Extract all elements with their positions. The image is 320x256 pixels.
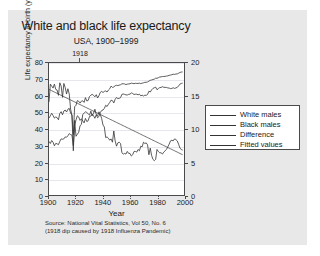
y-tick-label-left: 30: [26, 142, 43, 151]
y-tick-label-left: 40: [26, 125, 43, 134]
y-tick-mark-right: [185, 129, 188, 130]
y-tick-label-left: 80: [26, 58, 43, 67]
chart-title: White and black life expectancy: [8, 19, 204, 33]
chart-subtitle: USA, 1900–1999: [8, 36, 204, 46]
annotation-1918-label: 1918: [60, 50, 100, 57]
chart-figure: White and black life expectancy USA, 190…: [8, 10, 307, 245]
x-tick-label: 1940: [92, 198, 114, 207]
y-axis-label-left: Life expectancy at birth (years): [24, 0, 31, 80]
grid-line: [49, 197, 184, 198]
x-tick-mark: [185, 196, 186, 199]
x-tick-label: 1920: [64, 198, 86, 207]
chart-legend: White malesBlack malesDifferenceFitted v…: [205, 105, 300, 150]
y-tick-mark-right: [185, 163, 188, 164]
source-note-line1: Source: National Vital Statistics, Vol 5…: [45, 220, 166, 226]
y-tick-label-right: 10: [191, 125, 205, 134]
y-tick-label-left: 20: [26, 159, 43, 168]
legend-label: Fitted values: [240, 140, 283, 150]
y-tick-label-right: 20: [191, 58, 205, 67]
legend-swatch: [210, 145, 236, 146]
legend-label: White males: [240, 110, 281, 120]
x-tick-label: 2000: [174, 198, 196, 207]
source-note-line2: (1918 dip caused by 1918 Influenza Pande…: [45, 228, 170, 234]
x-axis-label: Year: [48, 209, 185, 218]
y-tick-label-right: 5: [191, 159, 205, 168]
series-lines: [49, 63, 184, 195]
x-tick-label: 1980: [147, 198, 169, 207]
y-tick-label-left: 60: [26, 92, 43, 101]
legend-label: Black males: [240, 120, 280, 130]
legend-swatch: [210, 135, 236, 136]
legend-swatch: [210, 115, 236, 116]
legend-item[interactable]: Black males: [210, 120, 298, 130]
y-tick-mark-right: [185, 62, 188, 63]
y-tick-label-left: 70: [26, 75, 43, 84]
x-tick-label: 1960: [119, 198, 141, 207]
plot-area: [48, 62, 185, 196]
series-line-white-males: [49, 72, 183, 135]
x-tick-label: 1900: [37, 198, 59, 207]
legend-label: Difference: [240, 130, 274, 140]
legend-item[interactable]: Difference: [210, 130, 298, 140]
y-tick-label-left: 10: [26, 175, 43, 184]
y-tick-mark-right: [185, 96, 188, 97]
legend-item[interactable]: Fitted values: [210, 140, 298, 150]
y-tick-label-right: 15: [191, 92, 205, 101]
legend-item[interactable]: White males: [210, 110, 298, 120]
legend-swatch: [210, 125, 236, 126]
y-tick-label-left: 50: [26, 108, 43, 117]
